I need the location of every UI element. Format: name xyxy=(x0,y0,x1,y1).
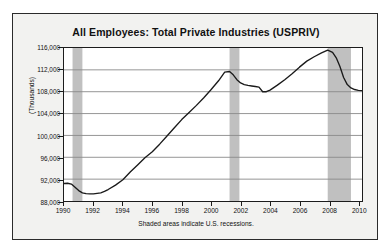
gridlines xyxy=(64,70,362,179)
y-tick-label: 88,000 xyxy=(18,199,60,206)
x-tick-mark xyxy=(241,202,242,206)
recession-band xyxy=(73,48,83,201)
x-tick-mark xyxy=(63,202,64,206)
x-tick-mark xyxy=(270,202,271,206)
y-tick-label: 100,000 xyxy=(18,132,60,139)
plot-area xyxy=(63,47,363,202)
recession-band xyxy=(328,48,351,201)
y-tick-label: 92,000 xyxy=(18,176,60,183)
x-tick-mark xyxy=(359,202,360,206)
x-axis-tick-labels: 1990199219941996199820002002200420062008… xyxy=(63,207,363,219)
data-line-usppriv xyxy=(64,50,362,194)
x-tick-mark xyxy=(122,202,123,206)
plot-svg xyxy=(64,48,362,201)
recession-bands xyxy=(73,48,351,201)
y-axis-tick-labels: 116,000112,000108,000104,000100,00096,00… xyxy=(13,47,60,202)
x-tick-mark xyxy=(211,202,212,206)
x-tick-mark xyxy=(330,202,331,206)
x-tick-label: 2010 xyxy=(339,207,379,214)
x-tick-mark xyxy=(93,202,94,206)
x-tick-mark xyxy=(152,202,153,206)
x-tick-mark xyxy=(300,202,301,206)
chart-figure: All Employees: Total Private Industries … xyxy=(12,13,378,240)
recession-band xyxy=(230,48,240,201)
chart-footnote: Shaded areas indicate U.S. recessions. xyxy=(13,220,379,227)
y-tick-label: 112,000 xyxy=(18,66,60,73)
x-tick-mark xyxy=(182,202,183,206)
chart-title: All Employees: Total Private Industries … xyxy=(13,26,379,38)
y-tick-label: 116,000 xyxy=(18,44,60,51)
y-tick-label: 96,000 xyxy=(18,154,60,161)
y-tick-label: 108,000 xyxy=(18,88,60,95)
y-tick-label: 104,000 xyxy=(18,110,60,117)
